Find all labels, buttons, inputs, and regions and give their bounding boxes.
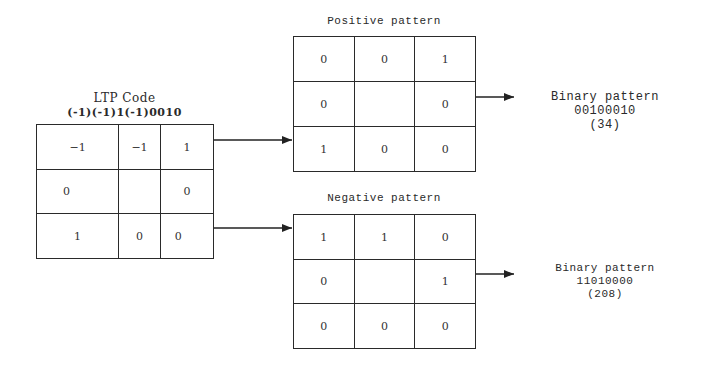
negative-cell: 1 bbox=[354, 215, 415, 260]
positive-grid: 0 0 1 0 0 1 0 0 bbox=[293, 36, 476, 172]
positive-decimal-value: (34) bbox=[540, 118, 670, 132]
ltp-grid: −1 −1 1 0 0 1 0 0 bbox=[36, 124, 214, 259]
positive-cell: 0 bbox=[354, 127, 415, 172]
negative-cell: 0 bbox=[415, 304, 476, 349]
negative-cell: 0 bbox=[354, 304, 415, 349]
positive-binary-label: Binary pattern bbox=[540, 90, 670, 104]
ltp-cell-center bbox=[119, 170, 161, 214]
negative-cell: 0 bbox=[415, 215, 476, 260]
negative-cell: 0 bbox=[294, 260, 355, 304]
negative-title: Negative pattern bbox=[293, 192, 475, 204]
positive-cell: 0 bbox=[415, 127, 476, 172]
negative-cell: 0 bbox=[294, 304, 355, 349]
positive-cell: 1 bbox=[415, 37, 476, 82]
ltp-cell: −1 bbox=[119, 125, 161, 170]
ltp-cell: −1 bbox=[37, 125, 119, 170]
ltp-cell: 1 bbox=[160, 125, 213, 170]
positive-cell-center bbox=[354, 82, 415, 127]
ltp-cell: 0 bbox=[119, 214, 161, 259]
positive-cell: 0 bbox=[354, 37, 415, 82]
negative-cell: 1 bbox=[415, 260, 476, 304]
positive-cell: 0 bbox=[294, 82, 355, 127]
negative-cell-center bbox=[354, 260, 415, 304]
ltp-title: LTP Code bbox=[36, 91, 213, 105]
negative-decimal-value: (208) bbox=[545, 288, 665, 300]
positive-binary-value: 00100010 bbox=[540, 104, 670, 118]
positive-cell: 1 bbox=[294, 127, 355, 172]
positive-cell: 0 bbox=[294, 37, 355, 82]
negative-binary-value: 11010000 bbox=[545, 275, 665, 287]
ltp-cell: 0 bbox=[160, 170, 213, 214]
ltp-cell: 0 bbox=[37, 170, 119, 214]
negative-grid: 1 1 0 0 1 0 0 0 bbox=[293, 214, 476, 349]
positive-title: Positive pattern bbox=[293, 15, 475, 27]
ltp-cell: 0 bbox=[160, 214, 213, 259]
ltp-cell: 1 bbox=[37, 214, 119, 259]
ltp-code: (-1)(-1)1(-1)0010 bbox=[36, 106, 213, 119]
negative-cell: 1 bbox=[294, 215, 355, 260]
negative-binary-label: Binary pattern bbox=[545, 262, 665, 274]
positive-cell: 0 bbox=[415, 82, 476, 127]
